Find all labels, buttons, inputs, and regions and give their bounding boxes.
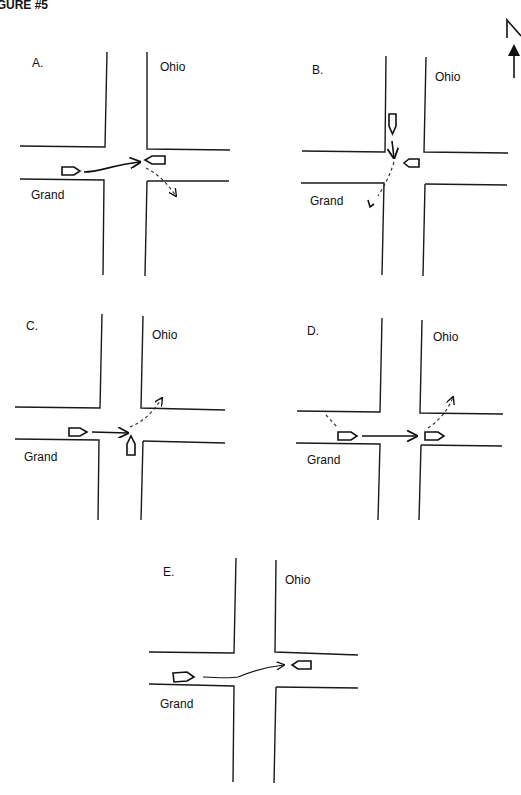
panel-d: D. Ohio Grand: [296, 318, 503, 520]
car-icon: [292, 661, 311, 669]
west-street-label: Grand: [24, 450, 57, 464]
car-icon: [145, 156, 165, 164]
north-street-label: Ohio: [435, 70, 461, 84]
west-street-label: Grand: [31, 188, 64, 202]
intersection-diagrams: A. Ohio Grand B. Ohio Grand C. Ohio Gran…: [0, 0, 521, 795]
north-arrow-icon: [507, 20, 521, 78]
north-street-label: Ohio: [160, 60, 186, 74]
north-street-label: Ohio: [433, 330, 459, 344]
west-street-label: Grand: [160, 697, 193, 711]
west-street-label: Grand: [310, 194, 343, 208]
north-street-label: Ohio: [152, 328, 178, 342]
panel-b: B. Ohio Grand: [301, 56, 508, 276]
car-icon: [389, 114, 396, 134]
car-icon: [338, 432, 357, 440]
car-icon: [404, 159, 419, 167]
panel-a: A. Ohio Grand: [20, 52, 230, 276]
north-street-label: Ohio: [285, 573, 311, 587]
panel-c: C. Ohio Grand: [15, 314, 225, 520]
car-icon: [69, 428, 87, 436]
panel-label: E.: [163, 565, 174, 579]
west-street-label: Grand: [307, 453, 340, 467]
panel-label: D.: [307, 324, 319, 338]
panel-label: A.: [32, 56, 43, 70]
car-icon: [62, 167, 80, 175]
panel-label: B.: [312, 63, 323, 77]
car-icon: [127, 436, 135, 455]
panel-label: C.: [26, 319, 38, 333]
car-icon: [173, 672, 194, 682]
car-icon: [425, 432, 444, 440]
panel-e: E. Ohio Grand: [149, 558, 358, 783]
